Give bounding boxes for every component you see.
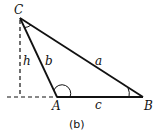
angle-mark-C	[25, 25, 32, 28]
vertex-label-C: C	[14, 3, 23, 17]
figure-caption: (b)	[69, 118, 85, 131]
side-label-a: a	[95, 54, 102, 68]
side-label-b: b	[45, 54, 53, 68]
triangle-diagram: C h b a A c B (b)	[0, 0, 158, 136]
vertex-label-A: A	[51, 99, 61, 113]
height-label-h: h	[23, 54, 31, 68]
side-label-c: c	[95, 98, 102, 112]
vertex-label-B: B	[143, 99, 153, 113]
angle-mark-B	[128, 88, 129, 97]
